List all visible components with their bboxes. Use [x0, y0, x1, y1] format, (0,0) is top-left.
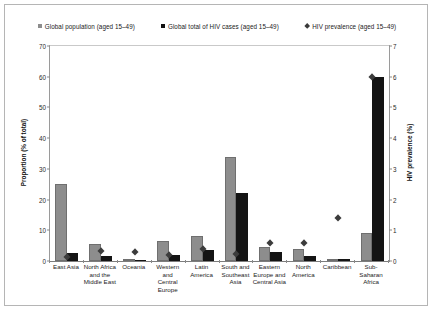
- x-axis-tickmark: [354, 260, 355, 263]
- legend-label-hiv-cases: Global total of HIV cases (aged 15–49): [168, 23, 279, 30]
- bar-population: [157, 241, 169, 261]
- legend-item-population: Global population (aged 15–49): [38, 23, 135, 30]
- square-black-icon: [161, 24, 165, 28]
- y-axis-right-tickmark: [389, 46, 392, 47]
- y-axis-left-tick-50: 50: [39, 104, 46, 111]
- x-axis-label-sub-saharan-africa: Sub-SaharanAfrica: [354, 263, 388, 286]
- bar-group: [220, 46, 254, 261]
- y-axis-right-tickmark: [389, 76, 392, 77]
- x-axis-tickmark: [320, 260, 321, 263]
- x-axis-label-oceania: Oceania: [117, 263, 151, 271]
- y-axis-right-tickmark: [389, 107, 392, 108]
- y-axis-left-tick-60: 60: [39, 73, 46, 80]
- x-axis-tickmark: [185, 260, 186, 263]
- bar-group: [152, 46, 186, 261]
- bar-hiv-cases: [270, 252, 282, 261]
- x-axis-label-latin-america: LatinAmerica: [185, 263, 219, 278]
- x-axis-label-north-america: NorthAmerica: [286, 263, 320, 278]
- y-axis-right-tickmark: [389, 138, 392, 139]
- y-axis-right-tick-0: 0: [393, 258, 397, 265]
- bar-group: [50, 46, 84, 261]
- y-axis-right-tick-6: 6: [393, 73, 397, 80]
- y-axis-left-tick-70: 70: [39, 43, 46, 50]
- x-axis-label-south-and-southeast-asia: South andSoutheastAsia: [219, 263, 253, 286]
- bar-population: [327, 259, 339, 261]
- legend-item-prevalence: HIV prevalence (aged 15–49): [305, 23, 396, 30]
- legend-item-hiv-cases: Global total of HIV cases (aged 15–49): [161, 23, 279, 30]
- y-axis-right-tickmark: [389, 168, 392, 169]
- bar-group: [186, 46, 220, 261]
- y-axis-right-tick-2: 2: [393, 196, 397, 203]
- x-axis-tickmark: [286, 260, 287, 263]
- chart-legend: Global population (aged 15–49) Global to…: [5, 19, 429, 33]
- x-axis-tickmark: [49, 260, 50, 263]
- x-axis-label-north-africa-and-the-middle-east: North Africaand theMiddle East: [83, 263, 117, 286]
- square-gray-icon: [38, 24, 42, 28]
- y-axis-right-tickmark: [389, 261, 392, 262]
- y-axis-right-tickmark: [389, 199, 392, 200]
- y-axis-right-tickmark: [389, 230, 392, 231]
- bar-group: [253, 46, 287, 261]
- x-axis-category-labels: East AsiaNorth Africaand theMiddle EastO…: [49, 263, 388, 311]
- bar-hiv-cases: [101, 256, 113, 261]
- bar-group: [287, 46, 321, 261]
- bar-population: [293, 249, 305, 261]
- bar-population: [361, 233, 373, 261]
- y-axis-left-tick-10: 10: [39, 227, 46, 234]
- x-axis-tickmark: [151, 260, 152, 263]
- bar-group: [118, 46, 152, 261]
- x-axis-label-caribbean: Caribbean: [320, 263, 354, 271]
- bar-hiv-cases: [135, 260, 147, 261]
- x-axis-tickmark: [83, 260, 84, 263]
- diamond-icon: [304, 23, 310, 29]
- legend-label-population: Global population (aged 15–49): [45, 23, 135, 30]
- y-axis-right-tick-5: 5: [393, 104, 397, 111]
- bar-group: [321, 46, 355, 261]
- chart-screenshot: Global population (aged 15–49) Global to…: [0, 0, 433, 311]
- x-axis-label-east-asia: East Asia: [49, 263, 83, 271]
- bar-hiv-cases: [304, 256, 316, 261]
- y-axis-right-tick-4: 4: [393, 135, 397, 142]
- y-axis-right-title: HIV prevalence (%): [405, 45, 415, 260]
- x-axis-label-western-and-central-europe: Western andCentralEurope: [151, 263, 185, 293]
- y-axis-left-tick-30: 30: [39, 165, 46, 172]
- bar-population: [225, 157, 237, 261]
- plot-inner: 01020304050607001234567: [50, 46, 389, 261]
- x-axis-tickmark: [388, 260, 389, 263]
- y-axis-left-tick-0: 0: [42, 258, 46, 265]
- x-axis-tickmark: [252, 260, 253, 263]
- y-axis-right-tick-7: 7: [393, 43, 397, 50]
- bar-hiv-cases: [338, 259, 350, 261]
- bar-population: [259, 247, 271, 261]
- y-axis-left-tick-40: 40: [39, 135, 46, 142]
- bar-hiv-cases: [372, 77, 384, 261]
- bar-hiv-cases: [203, 250, 215, 261]
- bar-population: [123, 259, 135, 261]
- x-axis-tickmark: [219, 260, 220, 263]
- x-axis-label-eastern-europe-and-central-asia: EasternEurope andCentral Asia: [252, 263, 286, 286]
- y-axis-right-tick-3: 3: [393, 165, 397, 172]
- bar-hiv-cases: [236, 193, 248, 261]
- y-axis-left-tick-20: 20: [39, 196, 46, 203]
- bar-group: [84, 46, 118, 261]
- bar-population: [55, 184, 67, 261]
- legend-label-prevalence: HIV prevalence (aged 15–49): [312, 23, 396, 30]
- plot-area: 01020304050607001234567: [49, 45, 390, 262]
- x-axis-tickmark: [117, 260, 118, 263]
- y-axis-left-title: Proportion (% of total): [19, 45, 29, 260]
- y-axis-right-tick-1: 1: [393, 227, 397, 234]
- figure-frame: Global population (aged 15–49) Global to…: [4, 4, 428, 306]
